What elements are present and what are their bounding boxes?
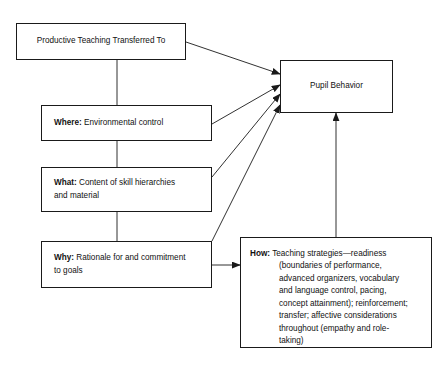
node-where-key: Where: (54, 118, 82, 127)
node-pupil-behavior-label: Pupil Behavior (281, 80, 392, 92)
node-how-line-6: transfer; affective considerations (250, 310, 425, 322)
edge-what-to-pupil (212, 94, 280, 177)
node-why[interactable]: Why: Rationale for and commitment to goa… (41, 241, 212, 288)
edge-where-to-pupil (212, 85, 280, 124)
node-how[interactable]: How: Teaching strategies—readiness(bound… (240, 237, 432, 348)
node-what-label: What: Content of skill hierarchies and m… (42, 177, 211, 202)
node-why-key: Why: (54, 253, 74, 262)
node-why-body: Rationale for and commitment to goals (54, 253, 186, 274)
node-how-line-7: throughout (empathy and role- (250, 323, 425, 335)
node-how-line-8: taking) (250, 335, 425, 347)
edge-productive-to-pupil (186, 42, 280, 74)
node-where-label: Where: Environmental control (42, 117, 211, 129)
node-where[interactable]: Where: Environmental control (41, 105, 212, 141)
node-how-key: How: (250, 249, 270, 258)
node-how-line1-text: Teaching strategies—readiness (270, 249, 386, 258)
flow-diagram: Productive Teaching Transferred To Pupil… (0, 0, 443, 367)
node-productive-teaching[interactable]: Productive Teaching Transferred To (16, 23, 186, 60)
edge-why-to-pupil (212, 105, 280, 241)
node-what-key: What: (54, 178, 77, 187)
node-why-label: Why: Rationale for and commitment to goa… (42, 252, 211, 277)
node-what[interactable]: What: Content of skill hierarchies and m… (41, 167, 212, 212)
node-pupil-behavior[interactable]: Pupil Behavior (280, 60, 393, 113)
node-how-line-4: and language control, pacing, (250, 285, 425, 297)
node-productive-teaching-label: Productive Teaching Transferred To (17, 35, 185, 47)
node-how-line-1: How: Teaching strategies—readiness (250, 248, 425, 260)
node-how-line-5: concept attainment); reinforcement; (250, 298, 425, 310)
node-how-line-3: advanced organizers, vocabulary (250, 273, 425, 285)
node-how-line-2: (boundaries of performance, (250, 260, 425, 272)
node-how-label: How: Teaching strategies—readiness(bound… (241, 238, 431, 348)
node-where-body: Environmental control (82, 118, 163, 127)
